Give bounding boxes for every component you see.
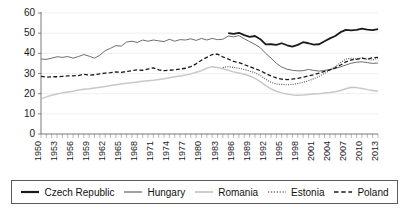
x-tick-label: 1956 bbox=[65, 141, 75, 161]
x-tick-label: 1992 bbox=[258, 141, 268, 161]
chart-plot-area: 0102030405060 19501953195619591962196519… bbox=[0, 0, 411, 176]
y-tick-label: 30 bbox=[24, 68, 36, 79]
legend-entry-poland[interactable]: Poland bbox=[333, 187, 388, 198]
legend-label: Estonia bbox=[291, 187, 324, 198]
y-tick-label: 10 bbox=[24, 108, 36, 119]
x-tick-label: 2004 bbox=[322, 141, 332, 161]
x-axis-labels-group: 1950195319561959196219651968197119741977… bbox=[33, 141, 380, 161]
x-tick-label: 1959 bbox=[81, 141, 91, 161]
x-tick-label: 1998 bbox=[290, 141, 300, 161]
y-tick-label: 20 bbox=[24, 88, 36, 99]
x-tick-label: 1950 bbox=[33, 141, 43, 161]
x-tick-label: 1962 bbox=[97, 141, 107, 161]
data-series-group bbox=[41, 29, 378, 99]
axis-lines-group bbox=[41, 12, 378, 134]
y-tick-label: 50 bbox=[24, 27, 36, 38]
legend-entry-czech-republic[interactable]: Czech Republic bbox=[20, 187, 114, 198]
line-chart-svg: 0102030405060 19501953195619591962196519… bbox=[0, 0, 411, 176]
series-line-czech-republic bbox=[228, 29, 378, 47]
legend-swatch-icon bbox=[333, 188, 353, 196]
x-tick-label: 1971 bbox=[145, 141, 155, 161]
chart-figure: 0102030405060 19501953195619591962196519… bbox=[0, 0, 411, 212]
x-tick-label: 2013 bbox=[370, 141, 380, 161]
legend-label: Romania bbox=[218, 187, 258, 198]
legend-entry-romania[interactable]: Romania bbox=[194, 187, 258, 198]
x-axis-ticks-group bbox=[41, 134, 378, 138]
x-tick-label: 2001 bbox=[306, 141, 316, 161]
x-tick-label: 1953 bbox=[49, 141, 59, 161]
chart-legend: Czech RepublicHungaryRomaniaEstoniaPolan… bbox=[11, 180, 398, 204]
legend-entry-estonia[interactable]: Estonia bbox=[267, 187, 324, 198]
legend-swatch-icon bbox=[194, 188, 214, 196]
x-tick-label: 1977 bbox=[177, 141, 187, 161]
x-tick-label: 1965 bbox=[113, 141, 123, 161]
legend-swatch-icon bbox=[267, 188, 287, 196]
y-tick-label: 40 bbox=[24, 47, 36, 58]
x-tick-label: 1986 bbox=[226, 141, 236, 161]
legend-swatch-icon bbox=[20, 188, 40, 196]
x-tick-label: 1989 bbox=[242, 141, 252, 161]
x-tick-label: 1968 bbox=[129, 141, 139, 161]
legend-label: Czech Republic bbox=[44, 187, 114, 198]
y-tick-label: 60 bbox=[24, 7, 36, 18]
x-tick-label: 2007 bbox=[338, 141, 348, 161]
y-tick-label: 0 bbox=[29, 128, 35, 139]
y-axis-ticks-group: 0102030405060 bbox=[24, 7, 41, 139]
x-tick-label: 1980 bbox=[193, 141, 203, 161]
gridlines-group bbox=[41, 13, 378, 114]
x-tick-label: 2010 bbox=[354, 141, 364, 161]
x-tick-label: 1974 bbox=[161, 141, 171, 161]
x-tick-label: 1995 bbox=[274, 141, 284, 161]
legend-label: Hungary bbox=[147, 187, 185, 198]
legend-entry-hungary[interactable]: Hungary bbox=[123, 187, 185, 198]
x-tick-label: 1983 bbox=[210, 141, 220, 161]
legend-swatch-icon bbox=[123, 188, 143, 196]
legend-label: Poland bbox=[357, 187, 388, 198]
